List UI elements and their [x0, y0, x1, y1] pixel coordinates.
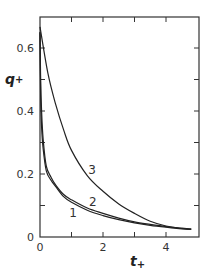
- curve-label-2: 2: [89, 195, 97, 209]
- curve-labels: 123: [69, 163, 96, 220]
- x-tick-label: 0: [37, 241, 44, 254]
- y-axis-title: q+: [5, 71, 23, 87]
- curve-1: [40, 32, 191, 229]
- x-axis-title: t+: [130, 253, 145, 270]
- y-tick-label: 0: [27, 231, 34, 244]
- y-tick-label: 0.6: [17, 42, 35, 55]
- curve-label-3: 3: [88, 163, 96, 177]
- x-tick-label: 2: [100, 241, 107, 254]
- curves: [40, 27, 191, 230]
- curve-3: [40, 27, 191, 229]
- curve-label-1: 1: [69, 206, 77, 220]
- y-tick-label: 0.4: [17, 105, 35, 118]
- x-tick-label: 4: [163, 241, 170, 254]
- curve-2: [40, 32, 191, 229]
- chart: 02400.20.40.6 123 q+ t+: [0, 0, 213, 279]
- y-tick-label: 0.2: [17, 168, 35, 181]
